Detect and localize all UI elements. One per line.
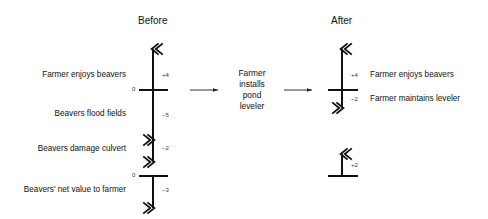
before-label-net: Beavers' net value to farmer xyxy=(24,185,126,194)
middle-line-1: Farmer xyxy=(226,68,278,79)
after-title: After xyxy=(331,15,352,26)
middle-line-2: installs xyxy=(226,79,278,90)
before-value-culvert: −2 xyxy=(162,145,169,151)
before-zero-bottom: 0 xyxy=(132,172,135,178)
before-value-flood: −5 xyxy=(162,112,169,118)
middle-line-4: leveler xyxy=(226,101,278,112)
after-label-maintain: Farmer maintains leveler xyxy=(370,94,460,103)
after-label-enjoy: Farmer enjoys beavers xyxy=(370,70,454,79)
after-value-maintain: −2 xyxy=(351,96,358,102)
before-label-flood: Beavers flood fields xyxy=(55,109,126,118)
middle-caption: Farmer installs pond leveler xyxy=(226,68,278,112)
middle-line-3: pond xyxy=(226,90,278,101)
before-label-culvert: Beavers damage culvert xyxy=(38,144,126,153)
before-value-net: −3 xyxy=(162,187,169,193)
after-value-enjoy: +4 xyxy=(351,72,358,78)
before-value-enjoy: +4 xyxy=(162,72,169,78)
before-zero-top: 0 xyxy=(132,86,135,92)
before-title: Before xyxy=(138,15,167,26)
before-label-enjoy: Farmer enjoys beavers xyxy=(42,70,126,79)
after-axis xyxy=(328,49,358,176)
after-value-net: +2 xyxy=(351,162,358,168)
